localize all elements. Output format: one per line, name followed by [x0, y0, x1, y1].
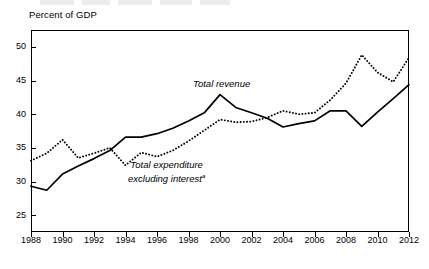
series-label-total-revenue: Total revenue	[193, 78, 250, 90]
series-lines	[31, 30, 409, 232]
x-tick-label-1990: 1990	[46, 236, 80, 245]
x-tick-label-2008: 2008	[329, 236, 363, 245]
y-tick-label-50: 50	[4, 42, 26, 51]
series-path-total-revenue	[31, 85, 409, 191]
series-path-total-expenditure-excluding-interest	[31, 55, 409, 165]
x-tick-label-2002: 2002	[235, 236, 269, 245]
chart-figure: Percent of GDP 253035404550 198819901992…	[0, 0, 429, 269]
y-tick-label-25: 25	[4, 211, 26, 220]
x-tick-label-2004: 2004	[266, 236, 300, 245]
y-tick-label-30: 30	[4, 177, 26, 186]
y-tick-label-45: 45	[4, 76, 26, 85]
y-tick-label-40: 40	[4, 110, 26, 119]
x-tick-label-2006: 2006	[298, 236, 332, 245]
y-axis-title: Percent of GDP	[29, 9, 97, 20]
x-tick-label-1992: 1992	[77, 236, 111, 245]
series-label-total-expenditure: Total expenditure excluding interesta	[128, 159, 205, 184]
y-tick-label-35: 35	[4, 143, 26, 152]
x-tick-label-2000: 2000	[203, 236, 237, 245]
x-tick-label-2010: 2010	[361, 236, 395, 245]
cropped-caption-remnant	[40, 0, 230, 5]
x-tick-label-1988: 1988	[14, 236, 48, 245]
x-tick-label-1996: 1996	[140, 236, 174, 245]
x-tick-label-1994: 1994	[109, 236, 143, 245]
x-tick-label-1998: 1998	[172, 236, 206, 245]
x-tick-label-2012: 2012	[392, 236, 426, 245]
footnote-marker: a	[202, 173, 205, 179]
